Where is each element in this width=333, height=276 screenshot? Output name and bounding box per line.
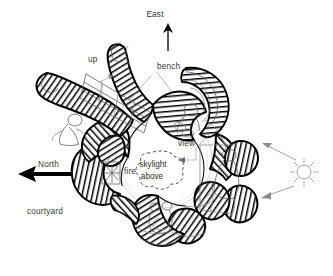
label-courtyard: courtyard (27, 206, 63, 216)
label-fire: fire (124, 166, 136, 176)
label-view: view (178, 138, 196, 148)
label-skylight-line1: skylight (139, 160, 167, 169)
label-skylight-line2: above (141, 172, 164, 181)
floor-plan-drawing: East up bench view skylight above North … (0, 0, 333, 276)
label-east: East (146, 9, 164, 19)
label-north: North (38, 159, 59, 169)
wall-lobe-east (225, 141, 258, 176)
label-bench: bench (157, 61, 181, 71)
label-up: up (88, 54, 98, 64)
